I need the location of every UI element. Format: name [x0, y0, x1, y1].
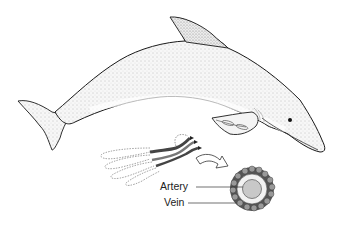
flipper-vessel-inset	[101, 134, 228, 185]
curved-arrow	[196, 154, 228, 168]
artery-label: Artery	[160, 180, 188, 192]
artery-lumen	[243, 180, 262, 199]
eye	[288, 118, 292, 122]
vessel-cross-section	[188, 166, 275, 211]
vein-label: Vein	[164, 196, 184, 208]
pectoral-flipper	[212, 112, 258, 135]
dolphin-body	[18, 17, 325, 152]
